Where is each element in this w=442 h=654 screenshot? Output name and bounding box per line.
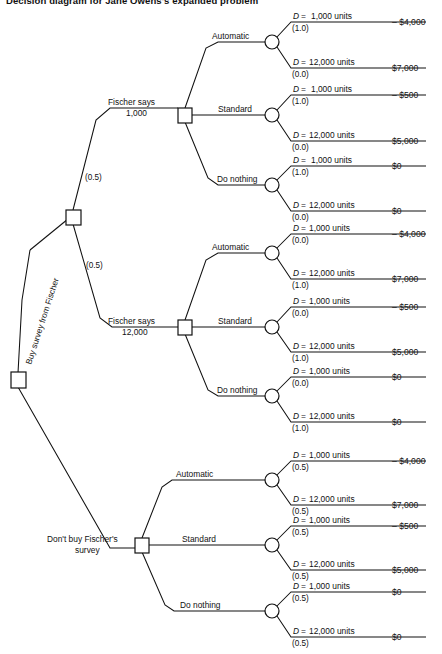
payoff-g9-low: $0	[392, 587, 402, 597]
payoff-g1-low: – $4,000	[392, 17, 426, 27]
outcome-prob-g9-high: (0.5)	[292, 639, 309, 648]
outcome-label-g3-high: D=12,000 units	[293, 200, 355, 210]
outcome-label-g2-high: D=12,000 units	[293, 130, 355, 140]
branch-label-a-standard: Standard	[218, 104, 252, 114]
outcome-prob-g8-low: (0.5)	[292, 528, 309, 537]
chance-node-a-standard[interactable]	[265, 108, 279, 122]
outcome-label-g3-low: D=1,000 units	[293, 155, 352, 165]
branch-dont-buy	[18, 387, 136, 548]
branch-label-dont-buy-line1: Don't buy Fischer's	[47, 534, 118, 544]
branch-label-buy-survey: Buy survey from Fischer	[23, 276, 60, 365]
outcome-label-g4-high: D=12,000 units	[293, 268, 355, 278]
payoff-g2-low: – $500	[392, 90, 419, 100]
outcome-label-g5-low: D=1,000 units	[293, 296, 350, 306]
decision-tree-svg: Buy survey from Fischer Don't buy Fische…	[0, 0, 442, 654]
payoff-g3-high: $0	[392, 206, 402, 216]
payoff-g4-high: $7,000	[392, 274, 419, 284]
branch-label-c-automatic: Automatic	[176, 469, 213, 479]
branch-label-fischer-1000-line2: 1,000	[126, 108, 147, 118]
branch-fischer-says-1000	[73, 108, 178, 210]
payoff-g7-low: – $4,000	[392, 456, 426, 466]
outcome-label-g9-low: D=1,000 units	[293, 581, 350, 591]
decision-node-fischer-12000[interactable]	[178, 320, 192, 335]
outcome-prob-g4-low: (0.0)	[292, 236, 309, 245]
outcome-label-g2-low: D=1,000 units	[293, 84, 352, 94]
outcome-label-g5-high: D=12,000 units	[293, 341, 355, 351]
outcome-prob-g5-high: (1.0)	[292, 354, 309, 363]
outcome-label-g7-low: D=1,000 units	[293, 450, 350, 460]
branch-buy-survey-2	[30, 219, 68, 250]
outcome-prob-g2-high: (0.0)	[292, 143, 309, 152]
outcome-prob-g4-high: (1.0)	[292, 281, 309, 290]
branch-label-fischer-12000-line1: Fischer says	[108, 316, 155, 326]
outcome-label-g6-low: D=1,000 units	[293, 366, 350, 376]
decision-node-fischer-1000[interactable]	[178, 108, 192, 123]
payoff-g6-high: $0	[392, 417, 402, 427]
outcome-label-g1-low: D=1,000 units	[293, 11, 352, 21]
branch-label-c-standard: Standard	[182, 534, 216, 544]
decision-node-dont-buy[interactable]	[135, 538, 149, 553]
payoff-g9-high: $0	[392, 632, 402, 642]
outcome-prob-g7-low: (0.5)	[292, 463, 309, 472]
branch-label-b-do-nothing: Do nothing	[217, 385, 258, 395]
branch-label-b-standard: Standard	[218, 316, 252, 326]
prob-fischer-says-1000: (0.5)	[85, 173, 102, 182]
chance-node-a-automatic[interactable]	[265, 35, 279, 49]
branch-label-a-do-nothing: Do nothing	[217, 174, 258, 184]
outcome-prob-g6-high: (1.0)	[292, 424, 309, 433]
branch-label-c-do-nothing: Do nothing	[180, 600, 221, 610]
branch-label-dont-buy-line2: survey	[75, 545, 100, 555]
outcome-label-g1-high: D=12,000 units	[293, 57, 355, 67]
payoff-g1-high: $7,000	[392, 63, 419, 73]
outcome-label-g4-low: D=1,000 units	[293, 223, 350, 233]
payoff-g8-low: – $500	[392, 521, 419, 531]
outcome-prob-g5-low: (0.0)	[292, 309, 309, 318]
chance-node-c-automatic[interactable]	[265, 473, 279, 487]
outcome-prob-g3-low: (1.0)	[292, 168, 309, 177]
chance-node-c-do-nothing[interactable]	[265, 604, 279, 618]
payoff-g4-low: – $4,000	[392, 229, 426, 239]
outcome-label-g8-high: D=12,000 units	[293, 559, 355, 569]
branch-fischer-says-12000	[73, 224, 178, 327]
payoff-g3-low: $0	[392, 161, 402, 171]
decision-diagram-page: Decision diagram for Jane Owens's expand…	[0, 0, 442, 654]
branch-c-automatic	[142, 480, 266, 538]
outcome-prob-g1-high: (0.0)	[292, 70, 309, 79]
chance-node-b-standard[interactable]	[265, 320, 279, 334]
outcome-prob-g6-low: (0.0)	[292, 379, 309, 388]
outcome-prob-g2-low: (1.0)	[292, 97, 309, 106]
outcome-label-g7-high: D=12,000 units	[293, 494, 355, 504]
chance-node-c-standard[interactable]	[265, 538, 279, 552]
outcome-label-g8-low: D=1,000 units	[293, 515, 350, 525]
outcome-label-g6-high: D=12,000 units	[293, 411, 355, 421]
survey-chance-node[interactable]	[66, 210, 81, 225]
prob-fischer-says-12000: (0.5)	[86, 261, 103, 270]
branch-b-automatic	[185, 253, 266, 320]
outcome-label-g9-high: D=12,000 units	[293, 626, 355, 636]
root-decision-node[interactable]	[11, 372, 26, 388]
branch-label-fischer-1000-line1: Fischer says	[108, 97, 155, 107]
payoff-g7-high: $7,000	[392, 500, 419, 510]
chance-node-b-do-nothing[interactable]	[265, 389, 279, 403]
branch-label-fischer-12000-line2: 12,000	[122, 327, 148, 337]
outcome-prob-g8-high: (0.5)	[292, 572, 309, 581]
outcome-prob-g1-low: (1.0)	[292, 24, 309, 33]
payoff-g2-high: $5,000	[392, 136, 419, 146]
chance-node-a-do-nothing[interactable]	[265, 178, 279, 192]
branch-label-a-automatic: Automatic	[212, 31, 249, 41]
payoff-g5-high: $5,000	[392, 347, 419, 357]
payoff-g8-high: $5,000	[392, 565, 419, 575]
outcome-prob-g9-low: (0.5)	[292, 594, 309, 603]
chance-node-b-automatic[interactable]	[265, 246, 279, 260]
payoff-g5-low: – $500	[392, 302, 419, 312]
payoff-g6-low: $0	[392, 372, 402, 382]
branch-label-b-automatic: Automatic	[212, 242, 249, 252]
branch-a-automatic	[185, 42, 266, 108]
outcome-prob-g3-high: (0.0)	[292, 213, 309, 222]
